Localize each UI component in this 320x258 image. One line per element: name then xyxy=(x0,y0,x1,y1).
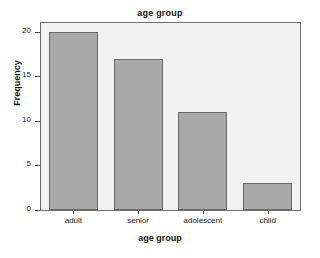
y-axis-title: Frequency xyxy=(12,38,22,128)
x-axis-tick-label: adolescent xyxy=(171,216,236,225)
x-axis-tick-label: senior xyxy=(106,216,171,225)
x-axis-tick-mark xyxy=(73,210,74,214)
y-axis-tick-label: 15 xyxy=(22,70,31,79)
y-axis-tick-mark xyxy=(35,32,40,33)
bar-slot xyxy=(171,23,236,210)
y-axis-tick-mark xyxy=(35,121,40,122)
x-axis-title: age group xyxy=(0,233,320,243)
bars-layer xyxy=(41,23,300,210)
y-axis-tick-label: 20 xyxy=(22,26,31,35)
y-axis-tick-label: 5 xyxy=(27,159,31,168)
x-axis-tick-mark xyxy=(138,210,139,214)
y-axis-tick-label: 0 xyxy=(27,204,31,213)
y-axis-tick-mark xyxy=(35,210,40,211)
x-axis-tick-label: adult xyxy=(41,216,106,225)
bar xyxy=(178,112,227,210)
bar-slot xyxy=(106,23,171,210)
bar-slot xyxy=(41,23,106,210)
bar-chart-figure: age group Frequency 05101520 adultsenior… xyxy=(0,0,320,258)
bar xyxy=(114,59,163,210)
y-axis-tick-mark xyxy=(35,165,40,166)
x-axis-tick-mark xyxy=(203,210,204,214)
y-axis-tick-mark xyxy=(35,76,40,77)
x-axis-tick-mark xyxy=(268,210,269,214)
bar xyxy=(243,183,292,210)
chart-title: age group xyxy=(0,8,320,18)
bar xyxy=(49,32,98,210)
y-axis-tick-label: 10 xyxy=(22,115,31,124)
x-axis-tick-label: child xyxy=(235,216,300,225)
bar-slot xyxy=(235,23,300,210)
